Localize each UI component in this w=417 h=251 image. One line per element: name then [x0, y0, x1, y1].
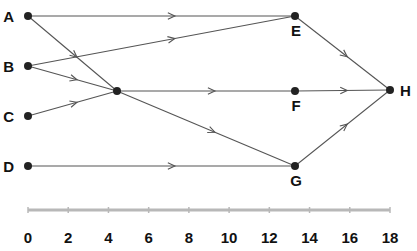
- node-label: H: [400, 82, 411, 99]
- axis-tick-label: 8: [185, 229, 193, 246]
- axis-tick-label: 2: [64, 229, 72, 246]
- node-label: E: [291, 22, 301, 39]
- edge-D-G: [28, 163, 295, 169]
- edge-B-E: [28, 16, 295, 66]
- node-dot: [386, 86, 394, 94]
- axis-tick-label: 18: [382, 229, 399, 246]
- axis-tick-label: 10: [221, 229, 238, 246]
- node-E: E: [291, 12, 301, 39]
- node-dot: [24, 112, 32, 120]
- node-A: A: [3, 8, 32, 25]
- node-dot: [24, 12, 32, 20]
- node-dot: [24, 162, 32, 170]
- edge-A-E: [28, 13, 295, 19]
- edges: [28, 13, 390, 169]
- axis-tick-label: 12: [261, 229, 278, 246]
- edge-C-X: [28, 91, 117, 116]
- node-X: [113, 87, 121, 95]
- edge-B-X: [28, 66, 117, 91]
- axis-tick-label: 4: [104, 229, 113, 246]
- network-diagram: ABCDEFGH 024681012141618: [0, 0, 417, 251]
- nodes: ABCDEFGH: [3, 8, 411, 190]
- node-G: G: [290, 162, 302, 189]
- edge-X-F: [117, 88, 295, 94]
- node-dot: [24, 62, 32, 70]
- edge-E-H: [295, 16, 390, 90]
- edge-A-X: [28, 16, 117, 91]
- node-C: C: [3, 108, 32, 125]
- node-label: C: [3, 108, 14, 125]
- node-label: G: [290, 172, 302, 189]
- time-axis: 024681012141618: [24, 207, 399, 246]
- axis-tick-label: 16: [341, 229, 358, 246]
- edge-X-G: [117, 91, 295, 166]
- node-dot: [291, 162, 299, 170]
- node-H: H: [386, 82, 411, 99]
- node-dot: [291, 87, 299, 95]
- axis-tick-label: 6: [144, 229, 152, 246]
- edge-G-H: [295, 90, 390, 166]
- node-B: B: [3, 58, 32, 75]
- node-dot: [113, 87, 121, 95]
- node-label: F: [291, 97, 300, 114]
- node-label: D: [3, 158, 14, 175]
- node-D: D: [3, 158, 32, 175]
- axis-tick-label: 14: [301, 229, 318, 246]
- node-dot: [291, 12, 299, 20]
- axis-tick-label: 0: [24, 229, 32, 246]
- node-label: B: [3, 58, 14, 75]
- edge-F-H: [295, 87, 390, 93]
- node-label: A: [3, 8, 14, 25]
